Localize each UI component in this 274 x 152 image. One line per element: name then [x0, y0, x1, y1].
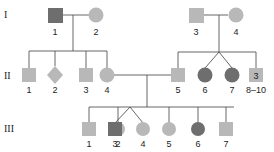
unknown-sex-diamond-symbol [47, 66, 63, 84]
individual-II-8-10: 3 8–10 [246, 68, 266, 95]
unaffected-male-symbol [189, 8, 204, 23]
individual-label: 3 [112, 139, 117, 149]
individual-II-2: 2 [47, 66, 63, 95]
individual-label: 1 [52, 27, 57, 37]
unaffected-male-symbol [79, 68, 93, 82]
pedigree-diagram: I II III 1 2 [0, 0, 274, 152]
individual-I-3: 3 [189, 8, 204, 37]
individual-label: 8–10 [246, 85, 266, 95]
affected-female-symbol [191, 122, 205, 136]
individual-label: 5 [175, 85, 180, 95]
individual-I-4: 4 [229, 8, 244, 38]
individual-II-3: 3 [79, 68, 93, 95]
individual-label: 3 [83, 85, 88, 95]
individual-label: 2 [52, 85, 57, 95]
individual-III-4: 4 [136, 122, 150, 149]
individual-II-1: 1 [22, 68, 36, 95]
individual-label: 2 [93, 27, 98, 37]
unaffected-female-symbol [136, 122, 150, 136]
unaffected-male-symbol [22, 68, 36, 82]
affected-male-symbol [108, 122, 122, 136]
affected-female-symbol [198, 68, 213, 83]
individual-II-5: 5 [171, 68, 185, 95]
individual-II-4: 4 [100, 68, 115, 96]
generation-label-1: I [4, 9, 7, 20]
individual-label: 6 [195, 139, 200, 149]
unaffected-male-symbol [219, 122, 233, 136]
individual-label: 4 [104, 85, 109, 95]
individual-II-6: 6 [198, 68, 213, 96]
individual-label: 1 [86, 139, 91, 149]
unaffected-male-symbol [171, 68, 185, 82]
unaffected-female-symbol [162, 122, 176, 136]
individual-II-7: 7 [225, 68, 240, 96]
individual-label: 6 [202, 85, 207, 95]
individual-label: 4 [140, 139, 145, 149]
individual-label: 5 [166, 139, 171, 149]
individual-I-2: 2 [89, 8, 104, 38]
connector-lines [29, 15, 256, 123]
unaffected-female-symbol [229, 8, 244, 23]
individual-label: 7 [229, 85, 234, 95]
individual-III-6: 6 [191, 122, 205, 149]
individual-III-7: 7 [219, 122, 233, 149]
individual-I-1: 1 [48, 8, 63, 37]
individual-label: 4 [233, 27, 238, 37]
unaffected-female-symbol [100, 68, 115, 83]
individual-III-5: 5 [162, 122, 176, 149]
individual-III-1: 1 [82, 122, 96, 149]
affected-female-symbol [225, 68, 240, 83]
group-count: 3 [253, 71, 258, 81]
individual-label: 1 [26, 85, 31, 95]
unaffected-female-symbol [89, 8, 104, 23]
affected-male-symbol [48, 8, 63, 23]
individual-label: 3 [193, 27, 198, 37]
generation-label-2: II [4, 70, 11, 81]
generation-label-3: III [4, 123, 14, 134]
individual-label: 7 [223, 139, 228, 149]
unaffected-male-symbol [82, 122, 96, 136]
